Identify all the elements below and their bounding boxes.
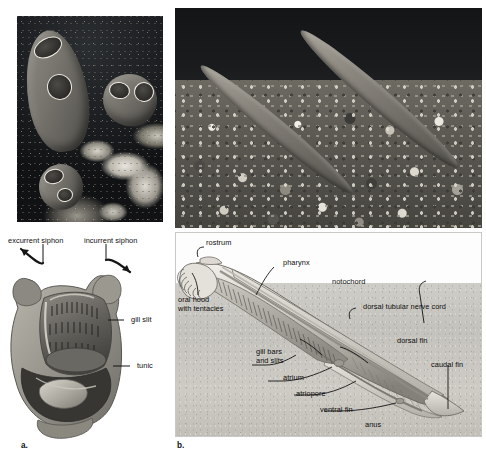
label-gill-slit: gill slit bbox=[131, 316, 152, 325]
label-rostrum: rostrum bbox=[206, 239, 231, 248]
panel-label-a: a. bbox=[21, 441, 28, 450]
tunicate-colony-photograph bbox=[17, 16, 163, 222]
tunicate-anatomy-illustration bbox=[0, 236, 175, 446]
figure-stage: excurrent siphon incurrent siphon gill s… bbox=[0, 0, 486, 469]
panel-label-b: b. bbox=[177, 441, 184, 450]
atriopore-opening bbox=[334, 360, 344, 367]
label-dorsal-fin: dorsal fin bbox=[397, 337, 428, 346]
nerve-cord-line bbox=[222, 267, 430, 395]
label-tunic: tunic bbox=[137, 362, 153, 371]
notochord-line bbox=[220, 271, 428, 399]
rostrum-tip bbox=[200, 257, 222, 265]
label-excurrent-siphon: excurrent siphon bbox=[8, 237, 63, 246]
pharyngeal-basket bbox=[40, 292, 112, 375]
label-atrium: atrium bbox=[283, 374, 304, 383]
lancelets-in-gravel-photograph bbox=[175, 8, 482, 228]
oral-hood-with-tentacles bbox=[178, 257, 222, 299]
label-caudal-fin: caudal fin bbox=[431, 361, 463, 370]
label-oral-hood-with-tentacles: oral hood with tentacles bbox=[178, 296, 223, 313]
label-atriopore: atriopore bbox=[296, 390, 326, 399]
label-anus: anus bbox=[365, 421, 381, 430]
label-notochord: notochord bbox=[332, 278, 365, 287]
label-pharynx: pharynx bbox=[283, 259, 310, 268]
anus-opening bbox=[396, 398, 404, 404]
label-gill-bars-and-slits: gill bars and slits bbox=[256, 348, 284, 365]
label-ventral-fin: ventral fin bbox=[320, 406, 353, 415]
tunicate-drawing-svg bbox=[0, 236, 175, 446]
label-dorsal-tubular-nerve-cord: dorsal tubular nerve cord bbox=[363, 303, 446, 312]
label-incurrent-siphon: incurrent siphon bbox=[84, 237, 137, 246]
